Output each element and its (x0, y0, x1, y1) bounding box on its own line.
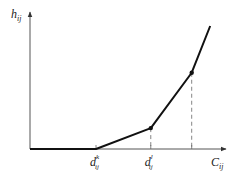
breakpoint-marker-3 (190, 71, 194, 75)
cost-curve (30, 26, 210, 149)
y-axis-label: hij (11, 7, 22, 23)
piecewise-cost-chart: dkijdlij hij Cij (0, 0, 239, 173)
breakpoint-marker-2 (149, 126, 153, 130)
x-tick-label-1: dlij (145, 153, 153, 171)
x-tick-label-0: dkij (90, 153, 100, 171)
x-axis-label: Cij (211, 155, 224, 171)
